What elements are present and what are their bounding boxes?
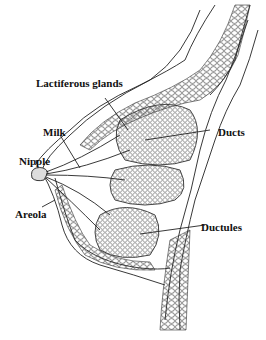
label-areola: Areola bbox=[15, 208, 47, 220]
label-ducts: Ducts bbox=[218, 126, 245, 138]
lobe-middle bbox=[110, 165, 184, 205]
label-milk: Milk bbox=[43, 126, 66, 138]
label-nipple: Nipple bbox=[19, 155, 50, 167]
label-ductules: Ductules bbox=[201, 221, 242, 233]
label-lactiferous-glands: Lactiferous glands bbox=[36, 77, 123, 89]
breast-anatomy-diagram bbox=[0, 0, 266, 340]
